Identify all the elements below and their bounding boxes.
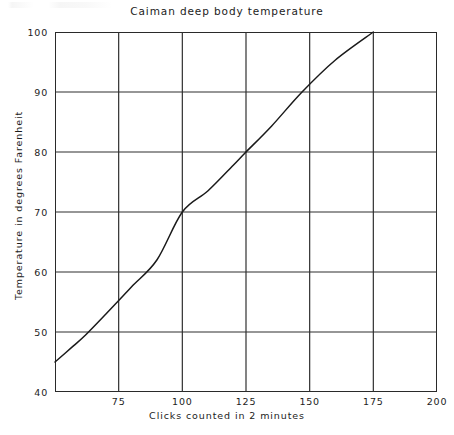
x-tick-label: 100: [157, 396, 207, 407]
chart-title: Caiman deep body temperature: [0, 5, 454, 17]
x-tick-label: 75: [94, 396, 144, 407]
y-tick-label: 100: [14, 27, 48, 38]
x-tick-label: 200: [412, 396, 454, 407]
x-tick-label: 175: [348, 396, 398, 407]
y-tick-label: 90: [14, 87, 48, 98]
chart-figure: Caiman deep body temperature 40506070809…: [0, 0, 454, 435]
series-line-caiman-temperature: [55, 32, 373, 362]
x-tick-label: 125: [221, 396, 271, 407]
x-tick-label: 150: [285, 396, 335, 407]
y-axis-title: Temperature in degrees Farenheit: [13, 106, 24, 306]
plot-area: [55, 32, 437, 392]
x-axis-title: Clicks counted in 2 minutes: [0, 410, 454, 421]
y-tick-label: 50: [14, 327, 48, 338]
plot-canvas: [55, 32, 437, 392]
y-tick-label: 40: [14, 387, 48, 398]
data-curve: [55, 32, 373, 362]
x-axis-tick-labels: 75100125150175200: [55, 396, 437, 410]
grid-lines: [55, 32, 437, 392]
